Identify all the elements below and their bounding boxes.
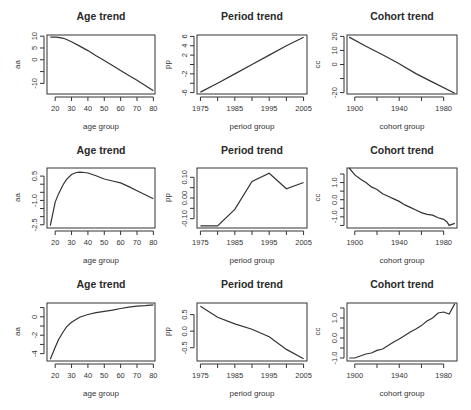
- x-tick-label: 1975: [192, 371, 209, 380]
- line-plot: 1975198519952005-6-2246: [0, 0, 471, 410]
- y-tick-label: 0.5: [180, 309, 189, 319]
- y-tick-label: -2: [180, 71, 189, 78]
- chart-title: Cohort trend: [347, 278, 457, 290]
- y-tick-label: 0.0: [330, 333, 339, 343]
- y-tick-label: -10: [30, 78, 39, 89]
- chart-title: Age trend: [47, 10, 155, 22]
- x-tick-label: 2005: [295, 104, 312, 113]
- x-tick-label: 30: [67, 371, 75, 380]
- y-axis-label: pp: [163, 54, 172, 74]
- y-tick-label: -4: [30, 350, 39, 357]
- x-tick-label: 1980: [435, 238, 452, 247]
- y-axis-label: aa: [13, 188, 22, 208]
- y-tick-label: -1.0: [30, 194, 39, 207]
- y-tick-label: 5: [30, 46, 39, 50]
- x-tick-label: 30: [67, 104, 75, 113]
- y-tick-label: -0.5: [180, 341, 189, 354]
- plot-frame: [47, 168, 155, 228]
- y-tick-label: 0: [30, 58, 39, 62]
- plot-frame: [347, 168, 457, 228]
- chart-title: Cohort trend: [347, 144, 457, 156]
- x-tick-label: 1995: [261, 238, 278, 247]
- x-axis-label: age group: [47, 122, 155, 131]
- x-tick-label: 1995: [261, 104, 278, 113]
- x-tick-label: 30: [67, 238, 75, 247]
- y-tick-label: 0: [30, 315, 39, 319]
- x-axis-label: period group: [197, 256, 307, 265]
- x-tick-label: 1900: [346, 371, 363, 380]
- chart-title: Age trend: [47, 278, 155, 290]
- x-tick-label: 70: [133, 371, 141, 380]
- plot-frame: [197, 168, 307, 228]
- y-axis-label: aa: [13, 322, 22, 342]
- y-tick-label: 4: [180, 44, 189, 48]
- x-axis-label: age group: [47, 389, 155, 398]
- x-tick-label: 40: [84, 104, 92, 113]
- x-tick-label: 20: [51, 104, 59, 113]
- x-axis-label: period group: [197, 122, 307, 131]
- x-tick-label: 1900: [346, 238, 363, 247]
- plot-frame: [347, 35, 457, 94]
- x-tick-label: 1975: [192, 104, 209, 113]
- y-tick-label: 2: [180, 53, 189, 57]
- trend-line: [50, 172, 153, 225]
- trend-line: [50, 305, 153, 359]
- x-tick-label: 40: [84, 238, 92, 247]
- x-tick-label: 70: [133, 104, 141, 113]
- x-tick-label: 20: [51, 371, 59, 380]
- trend-line: [200, 306, 303, 358]
- plot-frame: [47, 35, 155, 94]
- chart-title: Period trend: [197, 10, 307, 22]
- x-tick-label: 1985: [226, 104, 243, 113]
- y-tick-label: -2: [30, 332, 39, 339]
- y-tick-label: 0.0: [180, 326, 189, 336]
- x-tick-label: 1975: [192, 238, 209, 247]
- y-tick-label: -1.0: [330, 352, 339, 365]
- x-tick-label: 2005: [295, 371, 312, 380]
- x-tick-label: 60: [116, 371, 124, 380]
- y-axis-label: pp: [163, 188, 172, 208]
- x-tick-label: 60: [116, 238, 124, 247]
- x-tick-label: 80: [149, 238, 157, 247]
- line-plot: 190019401980-2001020: [0, 0, 471, 410]
- x-axis-label: period group: [197, 389, 307, 398]
- plot-frame: [47, 303, 155, 361]
- trend-line: [349, 168, 455, 225]
- chart-title: Age trend: [47, 144, 155, 156]
- y-tick-label: -0.10: [180, 210, 189, 227]
- x-tick-label: 1995: [261, 371, 278, 380]
- x-tick-label: 20: [51, 238, 59, 247]
- x-tick-label: 50: [100, 371, 108, 380]
- trend-line: [349, 304, 455, 358]
- x-tick-label: 1940: [391, 371, 408, 380]
- x-tick-label: 1980: [435, 371, 452, 380]
- line-plot: 20304050607080-4-20: [0, 0, 471, 410]
- x-tick-label: 80: [149, 104, 157, 113]
- y-tick-label: -1.0: [330, 210, 339, 223]
- x-tick-label: 1985: [226, 371, 243, 380]
- x-tick-label: 50: [100, 238, 108, 247]
- line-plot: 1975198519952005-0.100.000.10: [0, 0, 471, 410]
- y-tick-label: 0.00: [180, 191, 189, 206]
- line-plot: 190019401980-1.00.01.0: [0, 0, 471, 410]
- chart-title: Cohort trend: [347, 10, 457, 22]
- y-tick-label: 1.0: [330, 313, 339, 323]
- plot-frame: [347, 303, 457, 361]
- x-tick-label: 1985: [226, 238, 243, 247]
- y-axis-label: cc: [313, 322, 322, 342]
- trend-line: [349, 37, 455, 93]
- y-axis-label: cc: [313, 54, 322, 74]
- y-tick-label: 0.0: [330, 194, 339, 204]
- y-tick-label: -20: [330, 87, 339, 98]
- chart-title: Period trend: [197, 278, 307, 290]
- y-axis-label: pp: [163, 322, 172, 342]
- x-tick-label: 2005: [295, 238, 312, 247]
- y-tick-label: 6: [180, 34, 189, 38]
- chart-title: Period trend: [197, 144, 307, 156]
- y-tick-label: 0.5: [30, 171, 39, 181]
- line-plot: 190019401980-1.00.01.0: [0, 0, 471, 410]
- trend-line: [50, 37, 153, 91]
- x-tick-label: 50: [100, 104, 108, 113]
- x-axis-label: cohort group: [347, 389, 457, 398]
- trend-line: [200, 37, 303, 92]
